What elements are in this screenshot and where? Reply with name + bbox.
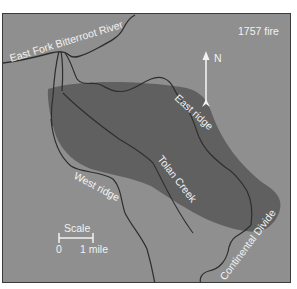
river-label: East Fork Bitterroot River [8,18,125,64]
fire-title-label: 1757 fire [238,25,279,37]
north-label: N [214,52,222,64]
scale-end-label: 1 mile [80,243,108,255]
scale-bar [59,233,93,243]
scale-start-label: 0 [56,243,62,255]
scale-title: Scale [64,222,90,234]
map-frame: East Fork Bitterroot River 1757 fire Eas… [2,13,291,283]
map-canvas: East Fork Bitterroot River 1757 fire Eas… [3,14,291,283]
tributary-line [61,51,63,91]
